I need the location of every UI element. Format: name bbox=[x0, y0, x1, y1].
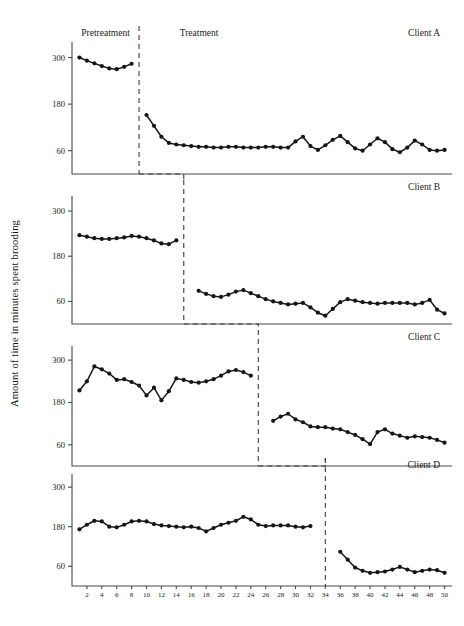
data-point bbox=[293, 525, 297, 529]
data-point bbox=[331, 307, 335, 311]
data-point bbox=[442, 311, 446, 315]
data-point bbox=[286, 146, 290, 150]
data-point bbox=[241, 370, 245, 374]
data-point bbox=[383, 301, 387, 305]
data-point bbox=[405, 301, 409, 305]
phase-label-treatment: Treatment bbox=[180, 28, 219, 38]
data-point bbox=[301, 525, 305, 529]
data-point bbox=[249, 146, 253, 150]
data-point bbox=[107, 525, 111, 529]
x-tick-label-2: 2 bbox=[85, 591, 89, 599]
data-point bbox=[301, 420, 305, 424]
data-point bbox=[226, 145, 230, 149]
data-point bbox=[122, 377, 126, 381]
data-point bbox=[353, 433, 357, 437]
data-point bbox=[249, 291, 253, 295]
series-line-pretreatment bbox=[79, 517, 310, 532]
data-point bbox=[130, 380, 134, 384]
data-point bbox=[167, 242, 171, 246]
data-point bbox=[420, 301, 424, 305]
data-point bbox=[159, 135, 163, 139]
data-point bbox=[219, 146, 223, 150]
data-point bbox=[226, 293, 230, 297]
data-point bbox=[174, 376, 178, 380]
data-point bbox=[338, 550, 342, 554]
data-point bbox=[375, 570, 379, 574]
data-point bbox=[286, 302, 290, 306]
panel-axis bbox=[72, 196, 452, 324]
y-tick-label-60: 60 bbox=[57, 146, 66, 156]
data-point bbox=[197, 145, 201, 149]
data-point bbox=[413, 434, 417, 438]
data-point bbox=[144, 519, 148, 523]
data-point bbox=[144, 236, 148, 240]
data-point bbox=[219, 374, 223, 378]
data-point bbox=[331, 138, 335, 142]
x-tick-label-38: 38 bbox=[352, 591, 360, 599]
data-point bbox=[398, 434, 402, 438]
y-tick-label-60: 60 bbox=[57, 561, 66, 571]
data-point bbox=[167, 389, 171, 393]
data-point bbox=[331, 426, 335, 430]
data-point bbox=[226, 369, 230, 373]
y-tick-label-180: 180 bbox=[52, 522, 65, 532]
data-point bbox=[211, 294, 215, 298]
data-point bbox=[368, 571, 372, 575]
data-point bbox=[77, 527, 81, 531]
data-point bbox=[316, 311, 320, 315]
data-point bbox=[122, 235, 126, 239]
data-point bbox=[428, 436, 432, 440]
data-point bbox=[308, 424, 312, 428]
data-point bbox=[353, 299, 357, 303]
data-point bbox=[316, 425, 320, 429]
data-point bbox=[353, 146, 357, 150]
data-point bbox=[241, 288, 245, 292]
series-line-pretreatment bbox=[79, 366, 250, 400]
data-point bbox=[279, 523, 283, 527]
data-point bbox=[442, 571, 446, 575]
data-point bbox=[92, 236, 96, 240]
panel-title-client-c: Client C bbox=[408, 332, 440, 342]
data-point bbox=[100, 519, 104, 523]
x-tick-label-18: 18 bbox=[203, 591, 211, 599]
data-point bbox=[346, 430, 350, 434]
data-point bbox=[211, 526, 215, 530]
x-tick-label-14: 14 bbox=[173, 591, 181, 599]
data-point bbox=[323, 143, 327, 147]
x-tick-label-46: 46 bbox=[411, 591, 419, 599]
x-tick-label-12: 12 bbox=[158, 591, 166, 599]
data-point bbox=[375, 430, 379, 434]
data-point bbox=[271, 419, 275, 423]
data-point bbox=[293, 302, 297, 306]
data-point bbox=[442, 441, 446, 445]
phase-connector bbox=[139, 174, 184, 180]
data-point bbox=[130, 234, 134, 238]
data-point bbox=[137, 235, 141, 239]
data-point bbox=[174, 238, 178, 242]
data-point bbox=[92, 364, 96, 368]
phase-connector bbox=[184, 324, 259, 330]
data-point bbox=[413, 570, 417, 574]
data-point bbox=[122, 523, 126, 527]
data-point bbox=[368, 142, 372, 146]
data-point bbox=[338, 427, 342, 431]
data-point bbox=[398, 150, 402, 154]
y-tick-label-180: 180 bbox=[52, 251, 65, 261]
data-point bbox=[301, 135, 305, 139]
data-point bbox=[264, 524, 268, 528]
data-point bbox=[368, 301, 372, 305]
data-point bbox=[286, 523, 290, 527]
data-point bbox=[428, 148, 432, 152]
data-point bbox=[420, 569, 424, 573]
phase-label-pretreatment: Pretreatment bbox=[81, 28, 130, 38]
data-point bbox=[211, 377, 215, 381]
x-tick-label-32: 32 bbox=[307, 591, 315, 599]
x-tick-label-36: 36 bbox=[337, 591, 345, 599]
y-tick-label-60: 60 bbox=[57, 440, 66, 450]
data-point bbox=[107, 66, 111, 70]
data-point bbox=[174, 142, 178, 146]
data-point bbox=[338, 300, 342, 304]
chart-canvas: 60180300Client APretreatmentTreatment601… bbox=[0, 0, 464, 626]
panel-client-b: 60180300Client B bbox=[52, 180, 452, 330]
x-tick-label-22: 22 bbox=[232, 591, 240, 599]
